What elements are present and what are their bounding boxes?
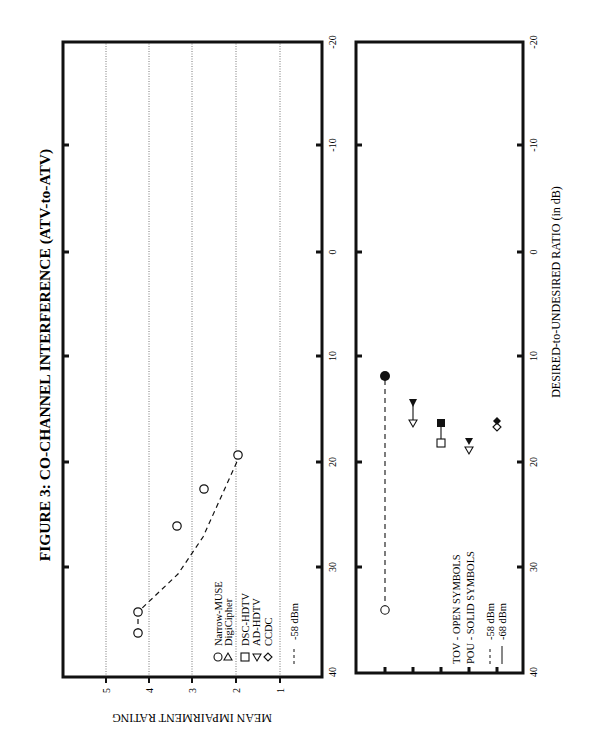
legend-label: DSC-HDTV <box>240 592 251 646</box>
y-axis-label: MEAN IMPAIRMENT RATING <box>112 711 272 725</box>
top-x-tick-labels: 40 30 20 10 0 -10 -20 <box>327 35 338 677</box>
legend-diamond-icon <box>264 653 272 661</box>
legend-solid-label: -68 dBm <box>497 603 508 640</box>
figure-title: FIGURE 3: CO-CHANNEL INTERFERENCE (ATV-t… <box>36 149 54 561</box>
narrow-muse-tov-point <box>381 606 389 614</box>
bottom-legend: TOV - OPEN SYMBOLS POU - SOLID SYMBOLS -… <box>451 551 508 664</box>
x-tick: 40 <box>528 667 539 677</box>
legend-dashed-label: -58 dBm <box>485 603 496 640</box>
x-tick: -10 <box>528 138 539 151</box>
x-tick: 10 <box>528 351 539 361</box>
legend-label: DigiCipher <box>223 598 234 646</box>
chart-svg: FIGURE 3: CO-CHANNEL INTERFERENCE (ATV-t… <box>0 0 598 732</box>
top-plot-frame <box>63 42 322 677</box>
x-axis-label: DESIRED-to-UNDESIRED RATIO (in dB) <box>549 186 563 398</box>
x-tick: 0 <box>327 250 338 255</box>
bottom-plot-frame <box>356 42 523 673</box>
legend-label: CCDC <box>263 617 274 646</box>
x-tick: 0 <box>528 250 539 255</box>
digicipher-pou-point <box>409 399 417 407</box>
x-tick: 30 <box>528 562 539 572</box>
top-y-tick-labels: 5 4 3 2 1 <box>101 688 286 693</box>
ad-hdtv-tov-point <box>465 447 473 454</box>
x-tick: -20 <box>327 35 338 48</box>
legend-triangle-down-icon <box>224 653 232 660</box>
narrow-muse-pou-point <box>380 371 390 381</box>
x-tick: -20 <box>528 35 539 48</box>
ad-hdtv-pou-point <box>465 438 473 445</box>
digicipher-tov-point <box>409 420 417 427</box>
bottom-chart: 40 30 20 10 0 -10 -20 DESIRED-to-UNDESIR… <box>356 35 563 677</box>
dsc-hdtv-pou-point <box>437 419 445 427</box>
legend-pou: POU - SOLID SYMBOLS <box>465 551 476 664</box>
legend-circle-icon <box>214 653 222 661</box>
grid-lines <box>106 42 280 677</box>
legend-triangle-up-icon <box>253 654 261 661</box>
y-tick: 5 <box>101 688 112 693</box>
top-x-ticks <box>63 145 322 567</box>
bottom-ticks <box>356 145 523 673</box>
y-tick: 3 <box>187 688 198 693</box>
bottom-x-tick-labels: 40 30 20 10 0 -10 -20 <box>528 35 539 677</box>
dsc-hdtv-tov-point <box>437 439 445 447</box>
legend-square-icon <box>241 653 249 661</box>
x-tick: 40 <box>327 667 338 677</box>
y-tick: 1 <box>275 688 286 693</box>
top-chart: 40 30 20 10 0 -10 -20 5 4 3 2 1 MEAN IMP… <box>63 35 338 725</box>
x-tick: 30 <box>327 562 338 572</box>
x-tick: -10 <box>327 138 338 151</box>
x-tick: 20 <box>528 457 539 467</box>
figure-canvas: FIGURE 3: CO-CHANNEL INTERFERENCE (ATV-t… <box>0 0 598 732</box>
y-tick: 4 <box>144 688 155 693</box>
y-tick: 2 <box>231 688 242 693</box>
legend-label: AD-HDTV <box>251 598 262 646</box>
legend-label: -58 dBm <box>289 603 300 640</box>
top-legend: Narrow-MUSE DigiCipher DSC-HDTV AD-HDTV … <box>213 581 300 664</box>
x-tick: 20 <box>327 457 338 467</box>
x-tick: 10 <box>327 351 338 361</box>
legend-tov: TOV - OPEN SYMBOLS <box>451 554 462 664</box>
ccdc-pou-point <box>493 417 501 425</box>
